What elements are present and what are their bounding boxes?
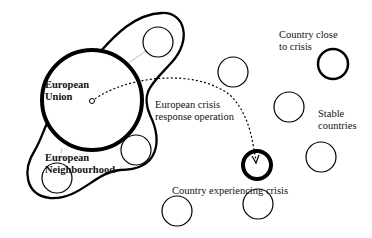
close-to-crisis-label-line2: to crisis (279, 41, 338, 53)
neighbourhood-label-line1: European (45, 152, 115, 164)
stable-country-circle (218, 57, 248, 87)
stable-country-circle (274, 92, 304, 122)
crisis-country-label: Country experiencing crisis (172, 185, 288, 197)
neighbourhood-label: European Neighbourhood (45, 152, 115, 176)
crisis-country-circle (243, 151, 271, 179)
eu-label-line2: Union (45, 91, 89, 103)
eu-label: European Union (45, 79, 89, 103)
operation-label: European crisis response operation (155, 99, 234, 123)
operation-label-line1: European crisis (155, 99, 234, 111)
operation-origin-dot (90, 99, 95, 104)
neighbour-country-circle (121, 135, 151, 165)
neighbour-country-circle (143, 27, 173, 57)
stable-country-circle (306, 142, 336, 172)
close-to-crisis-circle (318, 49, 348, 79)
crisis-country-label-text: Country experiencing crisis (172, 185, 288, 197)
arrowhead-icon (252, 155, 259, 163)
stable-countries-label: Stable countries (318, 108, 357, 132)
operation-label-line2: response operation (155, 111, 234, 123)
neighbourhood-label-line2: Neighbourhood (45, 164, 115, 176)
stable-countries-label-line2: countries (318, 120, 357, 132)
stable-country-circle (162, 196, 192, 226)
close-to-crisis-label: Country close to crisis (279, 29, 338, 53)
stable-countries-label-line1: Stable (318, 108, 357, 120)
eu-label-line1: European (45, 79, 89, 91)
close-to-crisis-label-line1: Country close (279, 29, 338, 41)
